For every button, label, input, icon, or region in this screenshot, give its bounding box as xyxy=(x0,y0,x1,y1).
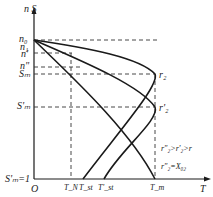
origin-label: O xyxy=(31,184,38,194)
x-tick-tst: T_st xyxy=(79,184,93,192)
characteristic-curves xyxy=(34,40,155,179)
annotation-resistance-equals: r"₂=X₀₂ xyxy=(161,163,186,171)
x-axis-arrow-icon xyxy=(204,177,211,182)
y-tick-sm-one: S'ₘ=1 xyxy=(5,174,30,184)
y-axis-label: n S xyxy=(24,4,37,14)
x-tick-tn: T_N xyxy=(64,184,78,192)
curve-label-r2: r₂ xyxy=(159,70,166,80)
guide-lines xyxy=(34,40,160,179)
y-tick-sm: Sₘ xyxy=(19,69,30,79)
y-tick-sm-prime: S'ₘ xyxy=(17,101,30,111)
y-tick-n-prime: n' xyxy=(21,49,28,59)
x-axis-label: T xyxy=(200,184,206,194)
x-tick-tm: T_m xyxy=(150,184,164,192)
annotation-resistance-order: r"₂>r'₂>r xyxy=(161,145,192,153)
curve-label-r2-prime: r'₂ xyxy=(159,103,169,113)
curve-r2 xyxy=(34,40,155,179)
x-tick-tst-prime: T'_st xyxy=(98,184,114,192)
